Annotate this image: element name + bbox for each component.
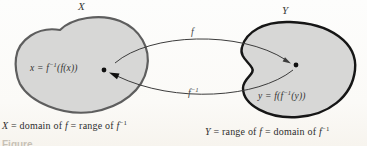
point-x-label-sup: −1 xyxy=(49,61,57,68)
point-x-label-post: (f(x)) xyxy=(57,63,78,73)
caption-y-seg1: = range of xyxy=(211,126,260,137)
caption-y-sup: −1 xyxy=(322,125,330,132)
caption-x-seg1: = domain of xyxy=(8,120,65,131)
caption-x: X = domain of f = range of f−1 xyxy=(2,120,127,131)
caption-y-seg2: = domain of xyxy=(262,126,319,137)
point-y-label: y = f(f−1(y)) xyxy=(258,91,306,101)
arrow-f-inverse-label: f−1 xyxy=(188,87,199,98)
inverse-function-diagram: X Y x = f−1(f(x)) y = f(f−1(y)) f f−1 X … xyxy=(0,0,367,146)
set-x-label: X xyxy=(78,0,85,12)
caption-x-seg2: = range of xyxy=(68,120,117,131)
caption-x-sup: −1 xyxy=(119,119,127,126)
arrow-f-inverse-label-sup: −1 xyxy=(191,86,199,93)
set-y-blob xyxy=(241,22,355,117)
set-y-label: Y xyxy=(282,4,288,16)
point-y-dot xyxy=(294,63,299,68)
arrow-f-label: f xyxy=(191,26,194,37)
caption-y: Y = range of f = domain of f−1 xyxy=(205,126,330,137)
point-x-label: x = f−1(f(x)) xyxy=(30,63,78,73)
point-x-dot xyxy=(102,68,107,73)
point-y-label-post: (y)) xyxy=(291,91,306,101)
figure-caption-partial: Figure xyxy=(2,139,33,146)
point-x-label-pre: x = f xyxy=(30,63,49,73)
point-y-label-pre: y = f(f xyxy=(258,91,283,101)
